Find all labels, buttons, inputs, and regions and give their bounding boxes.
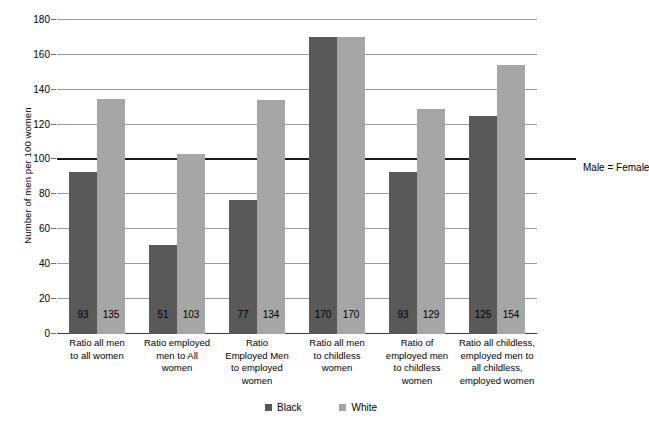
y-tick-label: 160 <box>33 48 50 59</box>
bar-white: 135 <box>97 99 125 335</box>
bar-value-label: 154 <box>503 309 520 320</box>
category-label-line: all childless, <box>457 362 537 375</box>
bar-value-label: 103 <box>183 309 200 320</box>
bar-group: 93135 <box>69 20 125 334</box>
chart-legend: BlackWhite <box>0 402 642 413</box>
y-tick-mark <box>51 228 56 229</box>
y-tick-label: 0 <box>44 327 50 338</box>
bar-black: 77 <box>229 200 257 334</box>
y-tick-label: 180 <box>33 14 50 25</box>
legend-item-white: White <box>339 402 377 413</box>
y-tick-label: 40 <box>39 258 50 269</box>
bar-group: 170170 <box>309 20 365 334</box>
bar-black: 51 <box>149 245 177 334</box>
category-label-line: Ratio of <box>377 337 457 350</box>
bar-value-label: 77 <box>237 309 248 320</box>
y-tick-mark <box>51 19 56 20</box>
y-tick-mark <box>51 263 56 264</box>
male-equals-female-annotation: Male = Female <box>583 162 649 173</box>
category-label-line: Employed Men <box>217 350 297 363</box>
x-category-label: Ratio ofemployed mento childlesswomen <box>377 337 457 387</box>
x-axis-category-labels: Ratio all mento all womenRatio employedm… <box>57 337 537 409</box>
y-tick-mark <box>51 124 56 125</box>
y-tick-label: 140 <box>33 83 50 94</box>
plot-area: 020406080100120140160180 931355110377134… <box>57 20 537 334</box>
y-tick-label: 120 <box>33 118 50 129</box>
category-label-line: Ratio all men <box>57 337 137 350</box>
y-tick-mark <box>51 298 56 299</box>
category-label-line: men to All <box>137 350 217 363</box>
category-label-line: to childless <box>297 350 377 363</box>
category-label-line: women <box>377 375 457 388</box>
x-category-label: Ratio employedmen to Allwomen <box>137 337 217 375</box>
bar-black: 93 <box>69 172 97 334</box>
y-tick-mark <box>51 193 56 194</box>
bar-value-label: 134 <box>263 309 280 320</box>
category-label-line: to employed <box>217 362 297 375</box>
category-label-line: Ratio all childless, <box>457 337 537 350</box>
bar-group: 77134 <box>229 20 285 334</box>
x-category-label: Ratio all mento childlesswomen <box>297 337 377 375</box>
bar-black: 93 <box>389 172 417 334</box>
category-label-line: to all women <box>57 350 137 363</box>
y-tick-mark <box>51 89 56 90</box>
bar-white: 170 <box>337 37 365 334</box>
x-category-label: Ratio all childless,employed men toall c… <box>457 337 537 387</box>
category-label-line: employed women <box>457 375 537 388</box>
bar-group: 93129 <box>389 20 445 334</box>
category-label-line: women <box>217 375 297 388</box>
bar-value-label: 170 <box>315 309 332 320</box>
bar-value-label: 125 <box>475 309 492 320</box>
legend-item-black: Black <box>265 402 301 413</box>
x-category-label: Ratio all mento all women <box>57 337 137 362</box>
y-tick-label: 20 <box>39 293 50 304</box>
bar-white: 154 <box>497 65 525 334</box>
category-label-line: women <box>297 362 377 375</box>
bar-black: 170 <box>309 37 337 334</box>
bar-value-label: 93 <box>397 309 408 320</box>
bar-value-label: 93 <box>77 309 88 320</box>
bar-group: 125154 <box>469 20 525 334</box>
bar-value-label: 129 <box>423 309 440 320</box>
category-label-line: Ratio all men <box>297 337 377 350</box>
y-tick-mark <box>51 54 56 55</box>
category-label-line: Ratio <box>217 337 297 350</box>
bar-black: 125 <box>469 116 497 334</box>
y-tick-label: 80 <box>39 188 50 199</box>
category-label-line: Ratio employed <box>137 337 217 350</box>
y-axis-title: Number of men per 100 women <box>22 76 33 276</box>
bar-value-label: 51 <box>157 309 168 320</box>
legend-label: White <box>351 402 377 413</box>
bar-white: 134 <box>257 100 285 334</box>
y-tick-label: 60 <box>39 223 50 234</box>
category-label-line: employed men to <box>457 350 537 363</box>
category-label-line: women <box>137 362 217 375</box>
legend-swatch-icon <box>339 404 346 411</box>
bars-layer: 93135511037713417017093129125154 <box>57 20 537 334</box>
bar-value-label: 135 <box>103 309 120 320</box>
category-label-line: employed men <box>377 350 457 363</box>
y-tick-mark <box>51 158 56 159</box>
y-tick-label: 100 <box>33 153 50 164</box>
legend-swatch-icon <box>265 404 272 411</box>
x-category-label: RatioEmployed Mento employedwomen <box>217 337 297 387</box>
bar-white: 129 <box>417 109 445 334</box>
category-label-line: to childless <box>377 362 457 375</box>
bar-group: 51103 <box>149 20 205 334</box>
bar-white: 103 <box>177 154 205 334</box>
y-tick-mark <box>51 333 56 334</box>
legend-label: Black <box>277 402 301 413</box>
bar-value-label: 170 <box>343 309 360 320</box>
